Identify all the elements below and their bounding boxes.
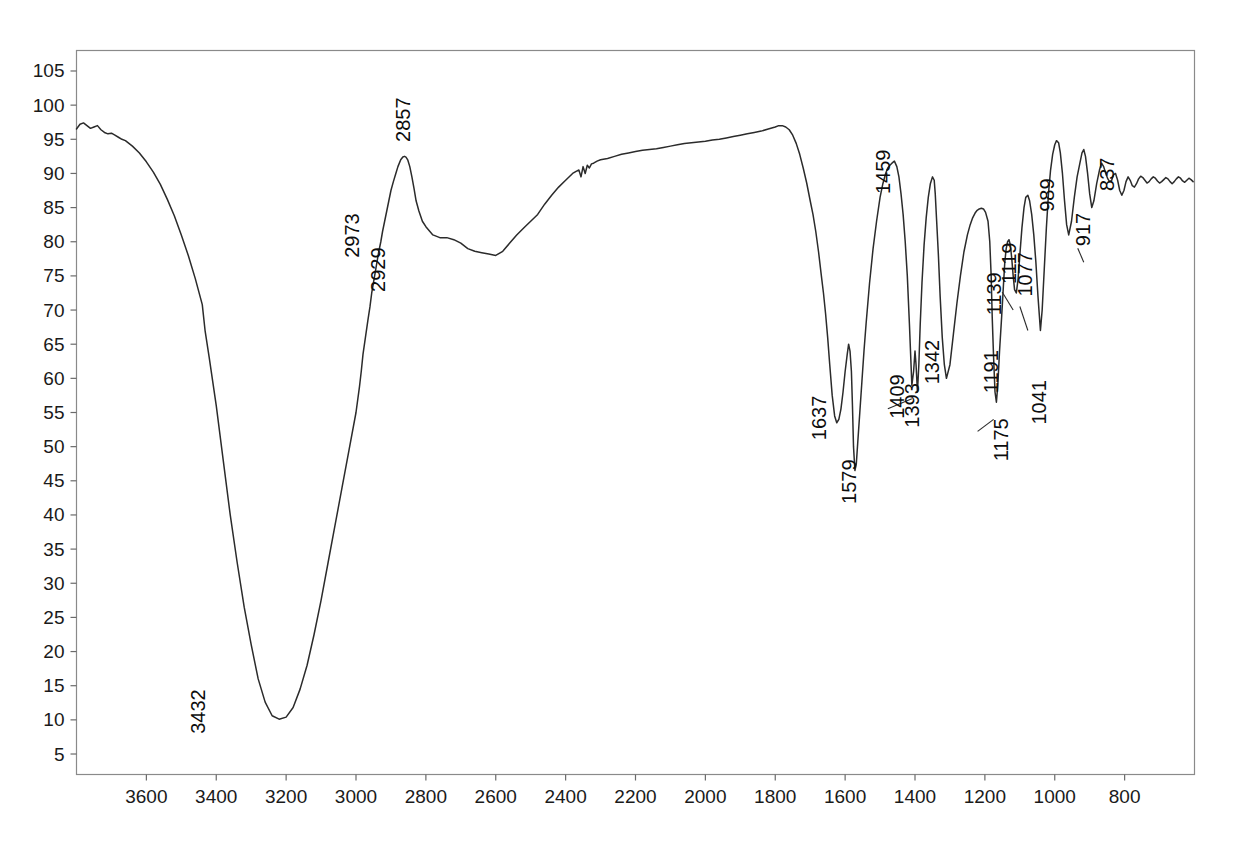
y-tick-label: 25 [43, 607, 64, 628]
y-tick-label: 40 [43, 504, 64, 525]
peak-label-989: 989 [1036, 178, 1058, 211]
y-tick-label: 30 [43, 573, 64, 594]
y-tick-label: 95 [43, 129, 64, 150]
peak-label-1041: 1041 [1028, 380, 1050, 425]
x-tick-label: 1800 [754, 786, 796, 807]
y-tick-label: 65 [43, 334, 64, 355]
y-tick-label: 55 [43, 402, 64, 423]
x-tick-label: 3600 [125, 786, 167, 807]
y-tick-label: 70 [43, 300, 64, 321]
y-tick-label: 5 [54, 744, 65, 765]
y-tick-label: 50 [43, 436, 64, 457]
peak-label-2973: 2973 [341, 213, 363, 258]
y-axis-labels: 5101520253035404550556065707580859095100… [33, 60, 65, 764]
x-tick-label: 2800 [405, 786, 447, 807]
peak-label-1191: 1191 [980, 350, 1002, 393]
plot-frame [77, 51, 1195, 775]
y-tick-label: 80 [43, 231, 64, 252]
x-tick-label: 1000 [1034, 786, 1076, 807]
spectrum-canvas: 5101520253035404550556065707580859095100… [0, 0, 1240, 843]
peak-label-1342: 1342 [921, 340, 943, 385]
x-tick-label: 2400 [544, 786, 586, 807]
y-tick-label: 10 [43, 709, 64, 730]
y-tick-label: 15 [43, 675, 64, 696]
x-tick-label: 1400 [894, 786, 936, 807]
peak-label-1175: 1175 [990, 418, 1012, 461]
x-tick-label: 2600 [475, 786, 517, 807]
ir-spectrum-chart: 5101520253035404550556065707580859095100… [0, 0, 1240, 843]
y-tick-label: 75 [43, 265, 64, 286]
y-tick-label: 100 [33, 95, 65, 116]
y-tick-label: 85 [43, 197, 64, 218]
peak-label-3432: 3432 [187, 689, 209, 734]
peak-label-2857: 2857 [392, 97, 414, 142]
peak-label-1579: 1579 [838, 459, 860, 504]
peak-label-1459: 1459 [872, 150, 894, 195]
y-tick-label: 90 [43, 163, 64, 184]
peak-label-1393: 1393 [901, 383, 923, 428]
y-tick-label: 45 [43, 470, 64, 491]
x-tick-label: 800 [1109, 786, 1141, 807]
x-tick-label: 3000 [335, 786, 377, 807]
peak-label-2929: 2929 [367, 247, 389, 292]
peak-label-1637: 1637 [808, 396, 830, 441]
x-tick-label: 3400 [195, 786, 237, 807]
y-tick-label: 60 [43, 368, 64, 389]
x-tick-label: 1200 [964, 786, 1006, 807]
x-tick-label: 2000 [684, 786, 726, 807]
y-tick-label: 20 [43, 641, 64, 662]
x-tick-label: 3200 [265, 786, 307, 807]
peak-label-1077: 1077 [1014, 252, 1036, 297]
peak-label-837: 837 [1096, 158, 1118, 191]
y-tick-label: 105 [33, 60, 65, 81]
x-tick-label: 1600 [824, 786, 866, 807]
peak-label-917: 917 [1072, 213, 1094, 246]
y-tick-label: 35 [43, 539, 64, 560]
x-axis-labels: 3600340032003000280026002400220020001800… [125, 786, 1140, 807]
x-tick-label: 2200 [614, 786, 656, 807]
